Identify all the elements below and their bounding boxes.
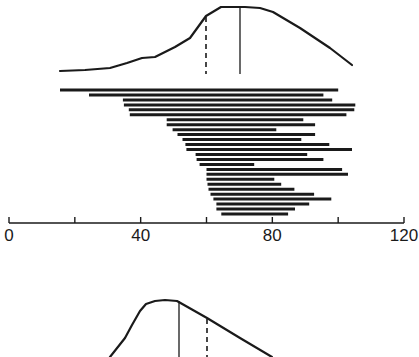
bottom-distribution-curve <box>110 300 272 357</box>
chart-canvas: 04080120 <box>0 0 419 357</box>
x-axis: 04080120 <box>4 217 418 245</box>
x-axis-tick-label: 40 <box>131 226 150 245</box>
x-axis-tick-label: 80 <box>263 226 282 245</box>
range-bars <box>60 90 355 214</box>
x-axis-tick-label: 0 <box>4 226 13 245</box>
x-axis-tick-label: 120 <box>390 226 418 245</box>
